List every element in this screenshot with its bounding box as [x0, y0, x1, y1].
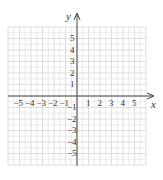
coordinate-plane [0, 0, 163, 180]
x-tick-label: 5 [132, 99, 137, 108]
x-tick-label: −3 [37, 99, 47, 108]
x-tick-label: −5 [14, 99, 24, 108]
y-tick-label: −3 [67, 126, 77, 135]
y-tick-label: −2 [67, 115, 77, 124]
y-tick-label: 4 [70, 46, 75, 55]
y-tick-label: 2 [70, 69, 75, 78]
x-tick-label: −4 [25, 99, 35, 108]
y-tick-label: −4 [67, 138, 77, 147]
x-tick-label: 4 [121, 99, 126, 108]
x-tick-label: 3 [109, 99, 114, 108]
x-tick-label: 1 [86, 99, 91, 108]
x-tick-label: −2 [48, 99, 58, 108]
x-axis-label: x [151, 99, 156, 110]
x-tick-label: 2 [98, 99, 103, 108]
y-tick-label: 1 [70, 80, 75, 89]
y-axis-label: y [66, 11, 71, 22]
y-tick-label: 5 [70, 34, 75, 43]
y-tick-label: −1 [67, 103, 77, 112]
y-tick-label: −5 [67, 149, 77, 158]
y-tick-label: 3 [70, 57, 75, 66]
